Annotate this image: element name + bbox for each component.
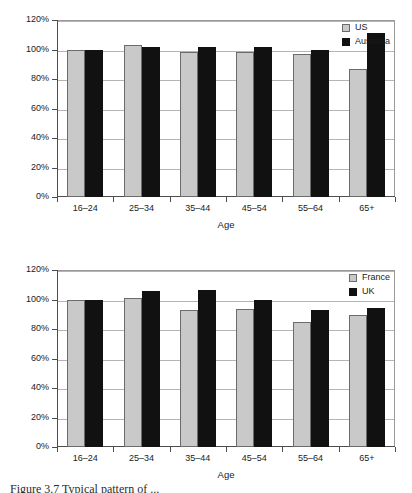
x-axis-tick — [339, 447, 340, 452]
x-axis-category-label: 65+ — [339, 203, 395, 213]
legend-label: France — [362, 272, 390, 283]
bar — [293, 54, 311, 197]
bar — [254, 300, 272, 447]
chart-legend: France UK — [349, 272, 390, 300]
x-axis-category-label: 16–24 — [57, 203, 113, 213]
y-axis-tick-label: 120% — [3, 15, 49, 24]
bar — [67, 50, 85, 198]
x-axis-category-label: 55–64 — [282, 203, 338, 213]
y-axis-tick-label: 0% — [3, 192, 49, 201]
bar — [142, 291, 160, 447]
y-axis-tick-label: 60% — [3, 354, 49, 363]
x-axis-tick — [170, 197, 171, 202]
bar — [85, 50, 103, 198]
bar — [236, 52, 254, 197]
x-axis-title: Age — [57, 469, 395, 480]
y-axis-tick-label: 20% — [3, 413, 49, 422]
bar-chart-us-australia: 0%20%40%60%80%100%120% 16–2425–3435–4445… — [0, 6, 412, 238]
y-axis-tick-label: 60% — [3, 104, 49, 113]
bar — [198, 47, 216, 197]
x-axis-category-label: 35–44 — [170, 453, 226, 463]
x-axis-tick — [113, 447, 114, 452]
bar — [236, 309, 254, 447]
bar — [311, 50, 329, 198]
bar — [367, 33, 385, 197]
legend-item: France — [349, 272, 390, 283]
bar — [349, 315, 367, 447]
bar — [367, 308, 385, 447]
legend-label: Australia — [355, 36, 390, 47]
bar — [180, 52, 198, 197]
y-axis-tick-label: 120% — [3, 265, 49, 274]
bar — [85, 300, 103, 448]
x-axis-tick — [282, 197, 283, 202]
y-axis-tick-label: 80% — [3, 74, 49, 83]
legend-swatch-icon — [342, 24, 350, 32]
x-axis-tick — [339, 197, 340, 202]
bar — [124, 45, 142, 197]
x-axis-tick — [170, 447, 171, 452]
legend-item: UK — [349, 286, 390, 297]
x-axis-tick — [395, 447, 396, 452]
legend-swatch-icon — [349, 288, 357, 296]
x-axis-category-label: 45–54 — [226, 453, 282, 463]
legend-item: Australia — [342, 36, 390, 47]
x-axis-category-label: 55–64 — [282, 453, 338, 463]
x-axis-tick — [395, 197, 396, 202]
x-axis-category-label: 35–44 — [170, 203, 226, 213]
legend-swatch-icon — [349, 274, 357, 282]
x-axis-category-label: 25–34 — [113, 203, 169, 213]
bar — [349, 69, 367, 197]
y-axis-tick-label: 80% — [3, 324, 49, 333]
bar — [198, 290, 216, 447]
y-axis-tick-label: 40% — [3, 383, 49, 392]
bar — [124, 298, 142, 447]
bar — [293, 322, 311, 447]
bar — [142, 47, 160, 197]
legend-swatch-icon — [342, 38, 350, 46]
y-axis-tick-label: 40% — [3, 133, 49, 142]
x-axis-category-label: 45–54 — [226, 203, 282, 213]
x-axis-category-label: 65+ — [339, 453, 395, 463]
bars-layer — [57, 270, 395, 447]
legend-label: US — [355, 22, 368, 33]
x-axis-category-label: 16–24 — [57, 453, 113, 463]
y-axis-tick-label: 100% — [3, 295, 49, 304]
x-axis-tick — [226, 447, 227, 452]
legend-label: UK — [362, 286, 375, 297]
x-axis-tick — [113, 197, 114, 202]
x-axis-tick — [57, 447, 58, 452]
figure-caption: Figure 3.7 Typical pattern of ... — [10, 482, 402, 493]
legend-item: US — [342, 22, 390, 33]
x-axis-title: Age — [57, 219, 395, 230]
bar — [67, 300, 85, 448]
y-axis-tick-label: 0% — [3, 442, 49, 451]
y-axis-tick-label: 100% — [3, 45, 49, 54]
chart-page: 0%20%40%60%80%100%120% 16–2425–3435–4445… — [0, 0, 412, 493]
bar — [180, 310, 198, 447]
bar — [311, 310, 329, 447]
x-axis-tick — [226, 197, 227, 202]
y-axis-tick-label: 20% — [3, 163, 49, 172]
x-axis-category-label: 25–34 — [113, 453, 169, 463]
chart-legend: US Australia — [342, 22, 390, 50]
bar-chart-france-uk: 0%20%40%60%80%100%120% 16–2425–3435–4445… — [0, 256, 412, 488]
x-axis-tick — [57, 197, 58, 202]
x-axis-tick — [282, 447, 283, 452]
bar — [254, 47, 272, 197]
